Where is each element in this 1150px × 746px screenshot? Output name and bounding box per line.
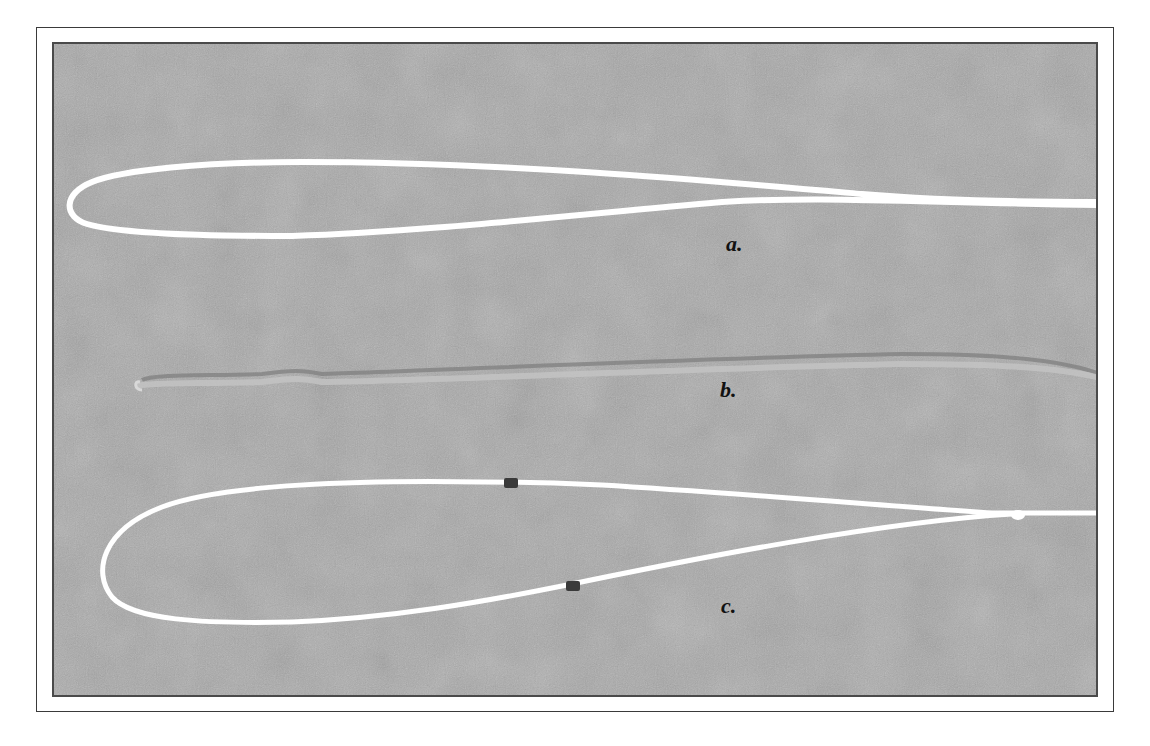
label-c: c. [721,593,736,619]
label-a: a. [726,231,743,257]
label-b: b. [720,377,737,403]
marker-band-lower [566,581,580,591]
figure-photo: a. b. c. [52,42,1098,697]
marker-band-upper [504,478,518,488]
photo-canvas [54,44,1098,697]
